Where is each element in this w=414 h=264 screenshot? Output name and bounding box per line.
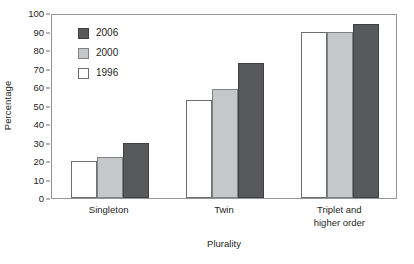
y-axis-tick-mark xyxy=(46,14,50,15)
bar xyxy=(238,63,264,198)
bar-group xyxy=(186,15,264,198)
legend-swatch-1996-icon xyxy=(78,68,89,79)
x-axis-category-label: Triplet andhigher order xyxy=(282,204,397,229)
bar xyxy=(212,89,238,198)
bar xyxy=(71,161,97,198)
y-axis-tick-mark xyxy=(46,51,50,52)
y-axis-tick-mark xyxy=(46,32,50,33)
y-axis-title: Percentage xyxy=(0,0,16,210)
y-axis-tick-mark xyxy=(46,69,50,70)
legend-label-2000: 2000 xyxy=(96,48,118,58)
y-axis-tick-label: 10 xyxy=(33,176,44,186)
legend-label-2006: 2006 xyxy=(96,28,118,38)
x-axis-category-label: Twin xyxy=(166,204,281,217)
x-axis-category-label-line: Singleton xyxy=(51,204,166,217)
y-axis-tick-label: 80 xyxy=(33,46,44,56)
bar-chart-figure: Percentage 0102030405060708090100 2006 2… xyxy=(0,0,414,264)
bar xyxy=(186,100,212,198)
y-axis-tick-mark xyxy=(46,125,50,126)
y-axis-tick-labels: 0102030405060708090100 xyxy=(18,14,44,199)
y-axis-tick-mark xyxy=(46,180,50,181)
x-axis-category-label-line: Twin xyxy=(166,204,281,217)
x-axis-category-label-line: Triplet and xyxy=(282,204,397,217)
y-axis-tick-mark xyxy=(46,143,50,144)
legend-item-2000: 2000 xyxy=(78,47,118,59)
legend: 2006 2000 1996 xyxy=(78,27,118,79)
y-axis-tick-label: 30 xyxy=(33,139,44,149)
bar xyxy=(327,32,353,198)
x-axis-category-label-line: higher order xyxy=(282,217,397,230)
bar xyxy=(97,157,123,198)
legend-item-2006: 2006 xyxy=(78,27,118,39)
y-axis-tick-label: 100 xyxy=(28,9,44,19)
y-axis-tick-label: 40 xyxy=(33,120,44,130)
y-axis-tick-label: 50 xyxy=(33,102,44,112)
bar-group xyxy=(301,15,379,198)
y-axis-tick-label: 20 xyxy=(33,157,44,167)
y-axis-tick-label: 0 xyxy=(39,194,44,204)
y-axis-tick-mark xyxy=(46,162,50,163)
y-axis-tick-mark xyxy=(46,199,50,200)
legend-swatch-2000-icon xyxy=(78,48,89,59)
y-axis-tick-label: 60 xyxy=(33,83,44,93)
legend-item-1996: 1996 xyxy=(78,67,118,79)
bar xyxy=(301,32,327,199)
y-axis-tick-mark xyxy=(46,106,50,107)
plot-area: 2006 2000 1996 xyxy=(51,14,397,199)
legend-swatch-2006-icon xyxy=(78,28,89,39)
y-axis-tick-label: 70 xyxy=(33,65,44,75)
y-axis-tick-label: 90 xyxy=(33,28,44,38)
y-axis-tick-mark xyxy=(46,88,50,89)
x-axis-category-label: Singleton xyxy=(51,204,166,217)
bar xyxy=(353,24,379,198)
bar xyxy=(123,143,149,199)
legend-label-1996: 1996 xyxy=(96,68,118,78)
x-axis-title: Plurality xyxy=(51,238,397,249)
y-axis-title-text: Percentage xyxy=(3,80,14,130)
x-axis-category-labels: SingletonTwinTriplet andhigher order xyxy=(51,204,397,238)
